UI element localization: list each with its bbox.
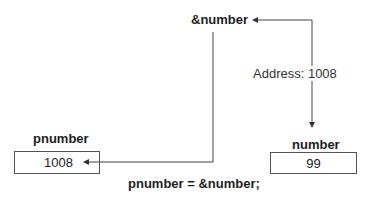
pointer-name-label: pnumber	[33, 131, 89, 146]
address-annotation: Address: 1008	[252, 66, 338, 81]
address-of-label: &number	[191, 12, 248, 27]
variable-name-label: number	[292, 137, 340, 152]
arrowhead-left-icon	[252, 17, 258, 23]
arrow-address-to-pointer	[88, 32, 213, 162]
variable-value: 99	[306, 156, 320, 171]
variable-box: 99	[270, 152, 357, 174]
assignment-statement: pnumber = &number;	[128, 176, 260, 191]
pointer-value: 1008	[44, 155, 73, 170]
pointer-box: 1008	[14, 151, 100, 174]
arrowhead-down-icon	[309, 122, 315, 128]
